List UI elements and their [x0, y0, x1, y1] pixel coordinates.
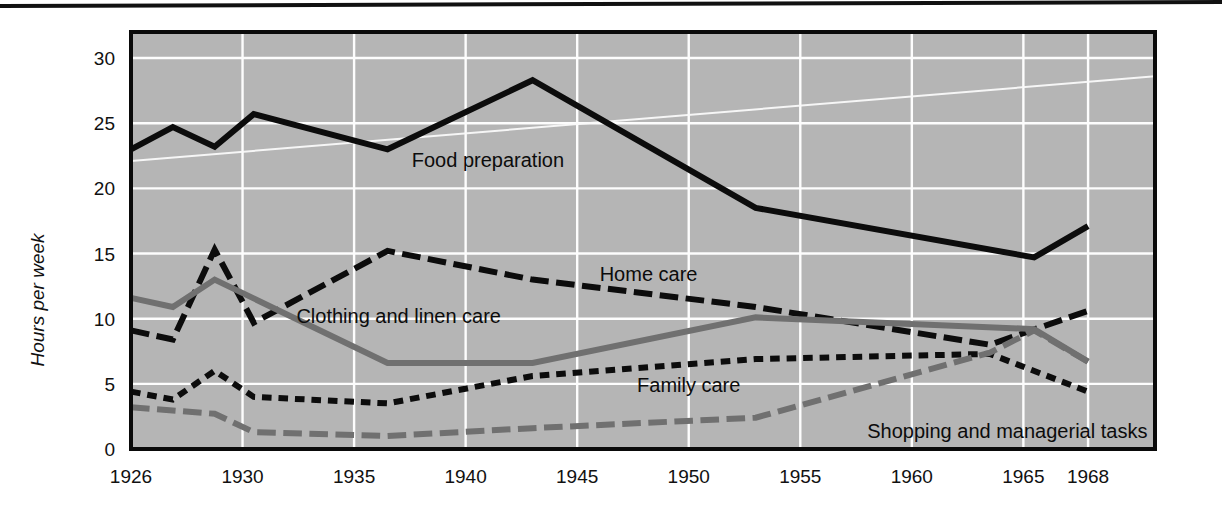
y-tick-label: 5 — [104, 374, 115, 395]
x-tick-label: 1935 — [333, 466, 375, 487]
x-tick-label: 1945 — [556, 466, 598, 487]
series-annotation-label: Food preparation — [412, 149, 564, 171]
y-tick-label: 25 — [94, 113, 115, 134]
series-annotation-label: Clothing and linen care — [296, 305, 501, 327]
x-tick-label: 1926 — [110, 466, 152, 487]
series-annotation-label: Family care — [637, 374, 740, 396]
x-tick-label: 1955 — [779, 466, 821, 487]
y-tick-label: 15 — [94, 244, 115, 265]
x-tick-label: 1940 — [444, 466, 486, 487]
y-tick-label: 10 — [94, 309, 115, 330]
x-tick-label: 1930 — [221, 466, 263, 487]
chart-figure: 051015202530 192619301935194019451950195… — [0, 0, 1222, 530]
series-annotation-label: Home care — [600, 263, 698, 285]
x-tick-label: 1965 — [1002, 466, 1044, 487]
x-tick-label: 1950 — [668, 466, 710, 487]
y-tick-label: 20 — [94, 178, 115, 199]
y-tick-label: 30 — [94, 48, 115, 69]
series-annotation-label: Shopping and managerial tasks — [867, 420, 1147, 442]
y-axis-title: Hours per week — [27, 232, 48, 367]
y-tick-label: 0 — [104, 439, 115, 460]
x-tick-label: 1960 — [891, 466, 933, 487]
x-tick-label: 1968 — [1067, 466, 1109, 487]
